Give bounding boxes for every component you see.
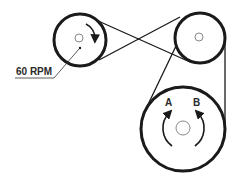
speed-label: 60 RPM: [16, 66, 52, 77]
driven-pulley: [141, 87, 225, 171]
drive-pulley: [54, 14, 106, 66]
idler-pulley: [175, 13, 225, 63]
direction-a-label: A: [165, 97, 172, 108]
belt-pulley-diagram: 60 RPM A B: [0, 0, 239, 178]
direction-b-label: B: [193, 97, 200, 108]
leader-dot: [79, 47, 81, 49]
diagram-canvas: [0, 0, 239, 178]
